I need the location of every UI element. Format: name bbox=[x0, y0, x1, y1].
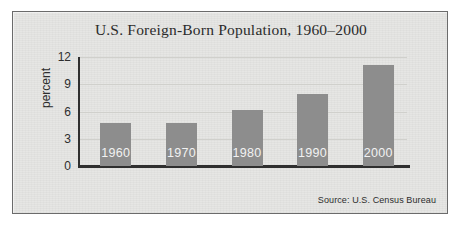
y-axis-tick-label: 9 bbox=[45, 78, 71, 90]
gridline bbox=[79, 84, 407, 85]
y-axis-tick-label: 3 bbox=[45, 133, 71, 145]
y-axis-tick-label: 0 bbox=[45, 160, 71, 172]
bar[interactable]: 1970 bbox=[166, 123, 197, 166]
bar[interactable]: 1990 bbox=[297, 94, 328, 166]
y-axis-tick-label: 12 bbox=[45, 51, 71, 63]
plot-area: 129630 19601970198019902000 bbox=[79, 57, 407, 166]
chart-panel: U.S. Foreign-Born Population, 1960–2000 … bbox=[12, 11, 448, 214]
y-axis-tick-label: 6 bbox=[45, 106, 71, 118]
source-note: Source: U.S. Census Bureau bbox=[318, 195, 436, 205]
y-axis-line bbox=[78, 57, 80, 166]
bar-label: 1980 bbox=[232, 146, 263, 160]
chart-figure: U.S. Foreign-Born Population, 1960–2000 … bbox=[0, 0, 464, 228]
bar[interactable]: 2000 bbox=[363, 65, 394, 166]
bar-label: 2000 bbox=[363, 146, 394, 160]
bar-label: 1960 bbox=[100, 146, 131, 160]
bar[interactable]: 1960 bbox=[100, 123, 131, 166]
bar-label: 1990 bbox=[297, 146, 328, 160]
chart-title: U.S. Foreign-Born Population, 1960–2000 bbox=[13, 21, 448, 39]
gridline bbox=[79, 57, 407, 58]
bar-label: 1970 bbox=[166, 146, 197, 160]
bar[interactable]: 1980 bbox=[232, 110, 263, 166]
